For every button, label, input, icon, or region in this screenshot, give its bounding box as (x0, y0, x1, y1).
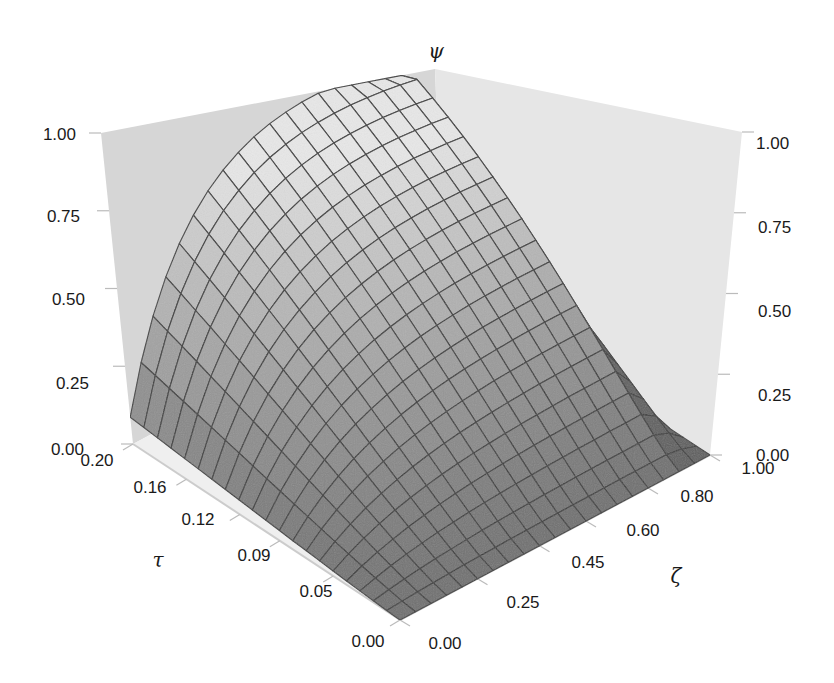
zeta-axis-label: ζ (671, 564, 683, 588)
zeta-tick-label: 0.45 (571, 553, 604, 572)
tau-tick-label: 0.12 (181, 510, 214, 529)
psi-tick-label-left: 0.00 (51, 440, 84, 459)
surface-plot: 0.000.050.090.120.160.200.000.250.450.60… (0, 0, 834, 683)
psi-tick-label-right: 0.00 (756, 446, 789, 465)
zeta-tick-label: 0.60 (626, 521, 659, 540)
zeta-tick-label: 0.80 (680, 487, 713, 506)
tau-axis-label: τ (152, 548, 164, 572)
tau-tick-label: 0.20 (80, 451, 113, 470)
psi-axis-label: ψ (428, 39, 444, 63)
tau-tick-label: 0.05 (299, 582, 332, 601)
psi-tick-label-right: 0.75 (758, 218, 791, 237)
psi-tick-label-right: 1.00 (756, 134, 789, 153)
tau-tick-label: 0.09 (237, 546, 270, 565)
zeta-tick-label: 0.00 (428, 634, 461, 653)
tau-tick-label: 0.00 (351, 632, 384, 651)
tau-tick-label: 0.16 (133, 478, 166, 497)
psi-tick-label-right: 0.25 (758, 386, 791, 405)
psi-tick-label-left: 1.00 (43, 125, 76, 144)
psi-tick-label-right: 0.50 (758, 302, 791, 321)
psi-tick-label-left: 0.75 (47, 207, 80, 226)
zeta-tick-label: 0.25 (506, 593, 539, 612)
psi-tick-label-left: 0.50 (52, 290, 85, 309)
psi-tick-label-left: 0.25 (56, 374, 89, 393)
